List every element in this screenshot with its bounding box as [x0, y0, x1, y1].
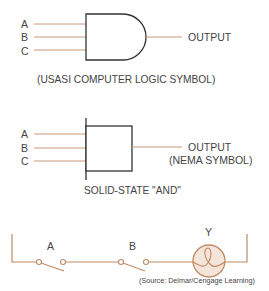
nema-and-gate-symbol	[86, 126, 132, 171]
switch-a-label: A	[47, 240, 54, 252]
source-credit: (Source: Delmar/Cengage Learning)	[139, 276, 255, 285]
lamp-label: Y	[205, 226, 212, 238]
usasi-caption: (USASI COMPUTER LOGIC SYMBOL)	[37, 74, 215, 85]
circuit-right-wire	[225, 234, 247, 262]
switch-a-blade	[41, 263, 64, 271]
nema-input-a-label: A	[21, 128, 28, 140]
usasi-and-gate: A B C OUTPUT (USASI COMPUTER LOGIC SYMBO…	[21, 14, 232, 85]
switch-a-left-contact	[37, 260, 42, 265]
nema-and-gate: A B C OUTPUT (NEMA SYMBOL) SOLID-STATE "…	[21, 118, 252, 196]
switch-b-blade	[123, 263, 145, 271]
nema-output-label: OUTPUT	[188, 141, 232, 153]
lamp-y: Y	[193, 226, 225, 277]
switch-b-left-contact	[119, 260, 124, 265]
usasi-input-b-label: B	[21, 31, 28, 43]
switch-b-right-contact	[144, 260, 149, 265]
switch-b-label: B	[129, 240, 136, 252]
and-gate-diagram: A B C OUTPUT (USASI COMPUTER LOGIC SYMBO…	[0, 0, 269, 291]
switch-b: B	[119, 240, 149, 271]
nema-caption: SOLID-STATE "AND"	[84, 185, 181, 196]
nema-input-c-label: C	[21, 155, 29, 167]
circuit-left-wire	[12, 234, 36, 262]
series-switch-circuit: A B Y (Source: Delmar/Cengage Learning)	[12, 226, 255, 285]
nema-output-sublabel: (NEMA SYMBOL)	[169, 154, 252, 166]
usasi-output-label: OUTPUT	[188, 31, 232, 43]
switch-a: A	[37, 240, 66, 271]
usasi-input-c-label: C	[21, 45, 29, 57]
usasi-input-a-label: A	[21, 18, 28, 30]
usasi-and-gate-symbol	[86, 14, 146, 60]
switch-a-right-contact	[61, 260, 66, 265]
nema-input-b-label: B	[21, 142, 28, 154]
